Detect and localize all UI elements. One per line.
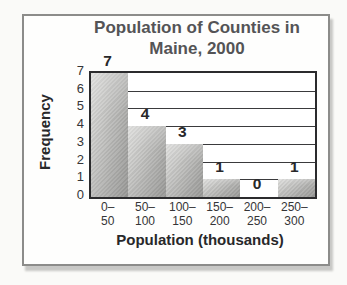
chart-title-line-2: Maine, 2000 [94, 38, 300, 59]
x-tick-label: 250– 300 [272, 201, 316, 228]
bar-value-label: 7 [103, 52, 112, 69]
bar-value-label: 4 [141, 105, 150, 122]
y-tick-label: 5 [58, 98, 84, 114]
x-axis-title: Population (thousands) [116, 231, 283, 248]
bar-value-label: 0 [253, 175, 262, 192]
y-axis-title: Frequency [36, 94, 53, 170]
y-tick-label: 0 [58, 187, 84, 203]
bar-value-label: 1 [290, 158, 299, 175]
y-tick-label: 4 [58, 116, 84, 132]
y-tick-label: 1 [58, 169, 84, 185]
bar-value-label: 3 [178, 123, 187, 140]
bar [203, 179, 240, 197]
chart-title-line-1: Population of Counties in [94, 17, 300, 38]
y-tick-label: 6 [58, 81, 84, 97]
bar [166, 144, 203, 197]
bar-value-label: 1 [215, 158, 224, 175]
y-tick-label: 7 [58, 63, 84, 79]
y-tick-label: 3 [58, 134, 84, 150]
y-tick-label: 2 [58, 152, 84, 168]
chart-title: Population of Counties in Maine, 2000 [94, 17, 300, 59]
bar [91, 73, 128, 197]
bar [278, 179, 315, 197]
plot-area [89, 71, 317, 199]
bar [128, 126, 165, 197]
